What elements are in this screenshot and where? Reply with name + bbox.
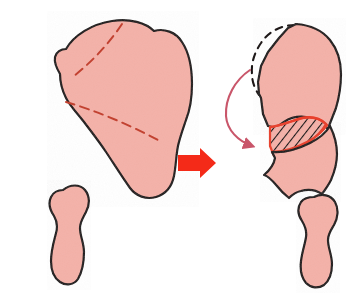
rotated-superior-fragment: [258, 24, 341, 129]
figure-canvas: [0, 0, 359, 295]
ischiopubic-fragment-left: [50, 186, 89, 285]
panel-after: [226, 24, 341, 287]
anatomical-figure: [0, 0, 359, 295]
ilium-body: [55, 20, 192, 198]
panel-before: [50, 20, 192, 284]
rotation-arrow: [226, 70, 252, 146]
transition-arrow: [178, 148, 216, 178]
ischiopubic-fragment-right: [298, 195, 337, 288]
right-arrow-icon: [178, 148, 216, 178]
